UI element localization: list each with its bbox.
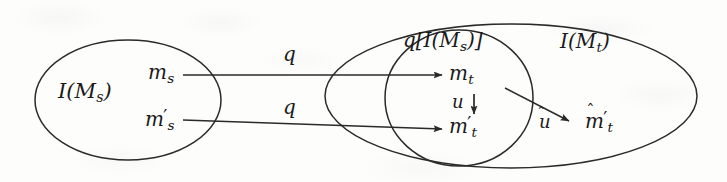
arrow-label-u-hat: ̂u <box>539 113 551 131</box>
arrow-label-q-lower: q <box>283 97 296 117</box>
element-m-s-prime: m′s <box>145 108 175 132</box>
arrow-u-hat <box>505 88 569 121</box>
element-m-t-prime: m′t <box>449 115 477 139</box>
element-m-t: mt <box>449 63 474 86</box>
element-m-s: ms <box>148 62 174 85</box>
arrow-label-q-upper: q <box>283 44 296 64</box>
source-set-label: I(Ms) <box>58 81 112 104</box>
arrow-q-lower <box>183 120 442 129</box>
element-m-t-hat-prime: ̂m′t <box>585 110 613 134</box>
diagram-figure: I(Ms) q[I(Ms)] I(Mt) ms m′s mt m′t ̂m′t … <box>0 0 727 182</box>
target-set-label: I(Mt) <box>560 31 610 54</box>
image-subset-label: q[I(Ms)] <box>403 30 483 53</box>
arrow-label-u: u <box>452 93 464 111</box>
